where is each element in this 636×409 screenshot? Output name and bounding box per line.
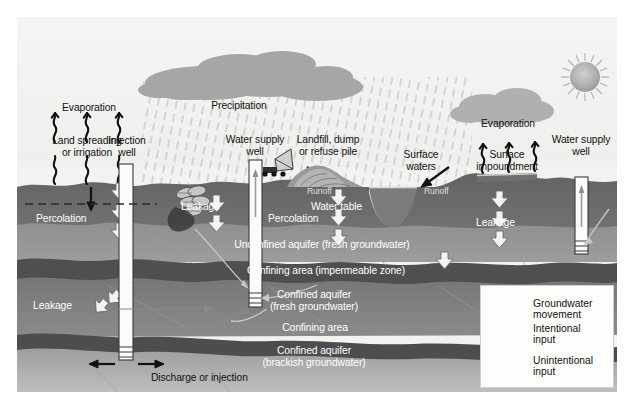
- label-evaporation-right: Evaporation: [481, 118, 535, 130]
- groundwater-diagram: Evaporation Precipitation Land spreading…: [0, 0, 636, 409]
- label-runoff-right: Runoff: [424, 187, 449, 197]
- sun-icon: [561, 53, 609, 101]
- label-leakage-right: Leakage: [476, 217, 515, 229]
- label-stratum-confined-brackish-2: (brackish groundwater): [262, 357, 365, 369]
- label-surface-waters: Surface waters: [404, 149, 439, 172]
- label-stratum-confined-brackish: Confined aquifer: [277, 345, 351, 357]
- label-runoff-left: Runoff: [307, 187, 332, 197]
- label-stratum-confining-1: Confining area (impermeable zone): [247, 265, 405, 277]
- diagram-frame: Evaporation Precipitation Land spreading…: [17, 17, 617, 392]
- label-percolation-left: Percolation: [36, 213, 86, 225]
- label-stratum-confined-fresh-2: (fresh groundwater): [270, 301, 358, 313]
- label-precipitation: Precipitation: [211, 100, 266, 112]
- label-stratum-confined-fresh: Confined aquifer: [277, 289, 351, 301]
- label-leakage-left: Leakage: [33, 300, 72, 312]
- legend-label-3b: input: [533, 366, 555, 377]
- label-discharge: Discharge or injection: [151, 372, 248, 384]
- label-water-table: Water table: [311, 201, 362, 213]
- legend-label-1b: movement: [533, 309, 581, 320]
- legend-label-2a: Intentional: [533, 323, 581, 334]
- label-evaporation-left: Evaporation: [62, 102, 116, 114]
- label-water-supply-well-right: Water supply well: [552, 134, 611, 157]
- label-water-supply-well-center: Water supply well: [226, 134, 285, 157]
- legend-label-3a: Unintentional: [533, 355, 593, 366]
- label-surface-impoundment: Surface impoundment: [476, 149, 537, 172]
- legend-label-1a: Groundwater: [533, 298, 593, 309]
- legend-label-2b: input: [533, 334, 555, 345]
- label-leakage-upper: Leakage: [181, 201, 220, 213]
- label-injection-well: Injection well: [108, 135, 145, 158]
- label-percolation-mid: Percolation: [268, 213, 318, 225]
- label-landfill: Landfill, dump or refuse pile: [297, 134, 360, 157]
- water-supply-well-center: [249, 160, 262, 307]
- label-stratum-unconfined: Unconfined aquifer (fresh groundwater): [234, 239, 409, 251]
- label-stratum-confining-2: Confining area: [282, 322, 348, 334]
- cloud-left: [138, 51, 363, 101]
- injection-well: [119, 164, 133, 360]
